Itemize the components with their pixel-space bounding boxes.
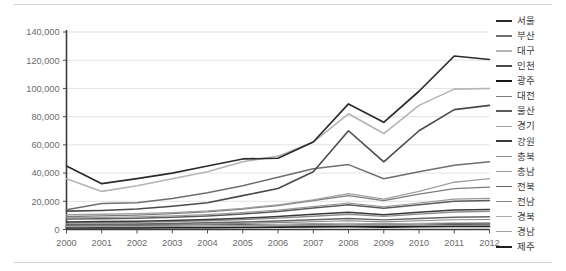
x-tick-label: 2008 (338, 238, 358, 248)
legend-item-label: 강원 (517, 137, 535, 147)
legend-color-swatch (496, 186, 512, 187)
y-tick-label: 20,000 (31, 197, 59, 207)
y-tick-label: 80,000 (31, 112, 59, 122)
x-tick-label: 2004 (197, 238, 217, 248)
legend-color-swatch (496, 201, 512, 202)
gridlines (67, 32, 490, 201)
legend-item-label: 광주 (517, 76, 535, 86)
legend-color-swatch (496, 126, 512, 127)
y-tick-label: 0 (54, 225, 59, 235)
legend-item[interactable]: 전북 (496, 179, 566, 194)
legend-item-label: 울산 (517, 106, 535, 116)
x-tick-label: 2006 (268, 238, 288, 248)
line-chart: 020,00040,00060,00080,000100,000120,0001… (0, 0, 566, 271)
legend-item-label: 대구 (517, 46, 535, 56)
chart-legend: 서울부산대구인천광주대전울산경기강원충북충남전북전남경북경남제주 (496, 13, 566, 255)
legend-item[interactable]: 경북 (496, 209, 566, 224)
x-tick-label: 2009 (374, 238, 394, 248)
x-tick-label: 2010 (409, 238, 429, 248)
legend-color-swatch (496, 110, 512, 112)
legend-item[interactable]: 부산 (496, 28, 566, 43)
legend-item[interactable]: 전남 (496, 194, 566, 209)
series-line (67, 56, 490, 184)
legend-item-label: 경북 (517, 212, 535, 222)
y-tick-label: 120,000 (26, 56, 59, 66)
legend-color-swatch (496, 246, 512, 248)
series-line (67, 88, 490, 191)
legend-color-swatch (496, 50, 512, 52)
legend-color-swatch (496, 65, 512, 67)
legend-item-label: 전북 (517, 182, 535, 192)
y-tick-label: 40,000 (31, 168, 59, 178)
legend-item[interactable]: 충남 (496, 164, 566, 179)
y-tick-label: 60,000 (31, 140, 59, 150)
legend-color-swatch (496, 171, 512, 172)
legend-item[interactable]: 강원 (496, 134, 566, 149)
legend-color-swatch (496, 80, 512, 82)
x-tick-label: 2000 (56, 238, 76, 248)
x-tick-label: 2011 (444, 238, 464, 248)
legend-color-swatch (496, 140, 512, 142)
legend-color-swatch (496, 156, 512, 157)
legend-item[interactable]: 제주 (496, 239, 566, 254)
legend-item-label: 제주 (517, 242, 535, 252)
x-tick-label: 2001 (92, 238, 112, 248)
legend-item-label: 서울 (517, 16, 535, 26)
legend-color-swatch (496, 35, 512, 37)
chart-figure: 020,00040,00060,00080,000100,000120,0001… (0, 0, 566, 271)
legend-color-swatch (496, 231, 512, 232)
legend-item[interactable]: 서울 (496, 13, 566, 28)
series-lines (67, 56, 490, 228)
x-tick-label: 2002 (127, 238, 147, 248)
legend-item-label: 전남 (517, 197, 535, 207)
x-tick-label: 2005 (233, 238, 253, 248)
legend-item-label: 인천 (517, 61, 535, 71)
legend-item-label: 충남 (517, 167, 535, 177)
legend-item-label: 충북 (517, 152, 535, 162)
legend-color-swatch (496, 96, 512, 97)
legend-item-label: 대전 (517, 91, 535, 101)
legend-item[interactable]: 경기 (496, 119, 566, 134)
legend-item[interactable]: 대구 (496, 43, 566, 58)
legend-item[interactable]: 광주 (496, 73, 566, 88)
legend-item[interactable]: 경남 (496, 224, 566, 239)
y-axis-tick-labels: 020,00040,00060,00080,000100,000120,0001… (26, 27, 59, 235)
legend-item-label: 경기 (517, 121, 535, 131)
legend-item[interactable]: 대전 (496, 88, 566, 103)
legend-item[interactable]: 울산 (496, 104, 566, 119)
legend-item[interactable]: 충북 (496, 149, 566, 164)
x-tick-label: 2003 (162, 238, 182, 248)
legend-item[interactable]: 인천 (496, 58, 566, 73)
legend-color-swatch (496, 216, 512, 217)
x-tick-label: 2007 (303, 238, 323, 248)
legend-item-label: 부산 (517, 31, 535, 41)
x-axis-tick-labels: 2000200120022003200420052006200720082009… (56, 238, 499, 248)
legend-item-label: 경남 (517, 227, 535, 237)
y-tick-label: 140,000 (26, 27, 59, 37)
y-tick-label: 100,000 (26, 84, 59, 94)
legend-color-swatch (496, 20, 512, 22)
plot-canvas: 020,00040,00060,00080,000100,000120,0001… (0, 0, 566, 271)
